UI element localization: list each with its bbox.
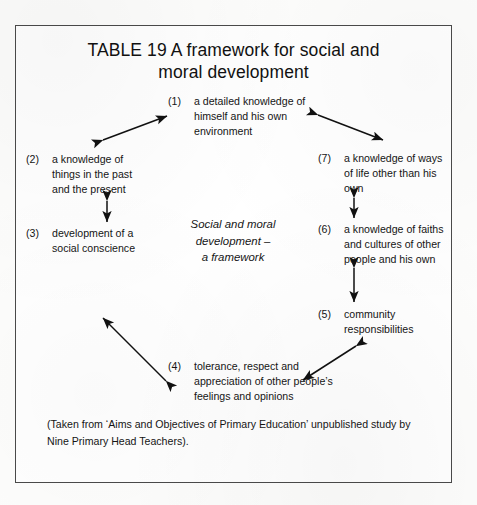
node-7-text: a knowledge of ways of life other than h… bbox=[344, 151, 450, 196]
node-1: (1) a detailed knowledge of himself and … bbox=[168, 94, 328, 139]
center-label-line-1: Social and moral bbox=[158, 216, 308, 233]
node-3-text: development of a social conscience bbox=[52, 226, 146, 256]
center-label-line-3: a framework bbox=[158, 249, 308, 266]
arrow-4-to-3 bbox=[103, 318, 166, 381]
node-5-text: community responsibilities bbox=[344, 307, 440, 337]
node-4-text: tolerance, respect and appreciation of o… bbox=[194, 359, 333, 404]
arrow-2-to-1 bbox=[103, 116, 167, 140]
source-caption-line-1: (Taken from ‘Aims and Objectives of Prim… bbox=[47, 416, 439, 433]
center-label: Social and moral development – a framewo… bbox=[158, 216, 308, 266]
node-6: (6) a knowledge of faiths and cultures o… bbox=[318, 222, 448, 267]
node-4-number: (4) bbox=[168, 359, 190, 374]
node-6-text: a knowledge of faiths and cultures of ot… bbox=[344, 222, 448, 267]
source-caption-line-2: Nine Primary Head Teachers). bbox=[47, 433, 439, 450]
node-5: (5) community responsibilities bbox=[318, 307, 440, 337]
node-2-text: a knowledge of things in the past and th… bbox=[52, 152, 146, 197]
node-2-number: (2) bbox=[26, 152, 48, 167]
node-4: (4) tolerance, respect and appreciation … bbox=[168, 359, 333, 404]
node-3: (3) development of a social conscience bbox=[26, 226, 146, 256]
node-7-number: (7) bbox=[318, 151, 340, 166]
node-3-number: (3) bbox=[26, 226, 48, 241]
node-5-number: (5) bbox=[318, 307, 340, 322]
source-caption: (Taken from ‘Aims and Objectives of Prim… bbox=[47, 416, 439, 449]
node-1-number: (1) bbox=[168, 94, 190, 109]
node-6-number: (6) bbox=[318, 222, 340, 237]
node-7: (7) a knowledge of ways of life other th… bbox=[318, 151, 450, 196]
figure-frame: TABLE 19 A framework for social and mora… bbox=[15, 25, 452, 483]
node-2: (2) a knowledge of things in the past an… bbox=[26, 152, 146, 197]
node-1-text: a detailed knowledge of himself and his … bbox=[194, 94, 328, 139]
center-label-line-2: development – bbox=[158, 233, 308, 250]
